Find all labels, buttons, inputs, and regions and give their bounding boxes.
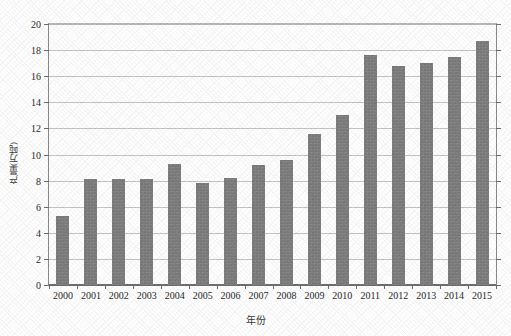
x-tick-mark — [245, 285, 246, 289]
bar — [196, 183, 209, 285]
y-tick-label: 10 — [31, 149, 41, 160]
y-tick-mark-right — [496, 50, 501, 51]
y-tick-label: 14 — [31, 97, 41, 108]
x-tick-label: 2008 — [276, 290, 296, 301]
x-tick-mark — [468, 285, 469, 289]
bar — [392, 66, 405, 285]
y-tick-label: 16 — [31, 71, 41, 82]
bar — [140, 179, 153, 285]
x-tick-mark — [217, 285, 218, 289]
y-tick-mark-left — [44, 76, 49, 77]
x-tick-mark — [412, 285, 413, 289]
y-tick-mark-right — [496, 76, 501, 77]
bar — [112, 179, 125, 285]
x-tick-label: 2006 — [221, 290, 241, 301]
x-tick-mark — [133, 285, 134, 289]
gridline — [49, 24, 496, 25]
x-tick-mark — [77, 285, 78, 289]
y-tick-label: 0 — [36, 280, 41, 291]
y-tick-mark-right — [496, 128, 501, 129]
x-tick-mark — [384, 285, 385, 289]
x-tick-mark — [300, 285, 301, 289]
bar-chart-figure: 产量(万吨) 02468101214161820 200020012002200… — [0, 0, 511, 336]
plot-area: 02468101214161820 2000200120022003200420… — [48, 23, 497, 286]
x-tick-mark — [273, 285, 274, 289]
y-tick-mark-left — [44, 128, 49, 129]
y-tick-mark-left — [44, 155, 49, 156]
bar — [280, 160, 293, 285]
x-tick-mark — [440, 285, 441, 289]
y-tick-mark-right — [496, 233, 501, 234]
y-tick-label: 4 — [36, 227, 41, 238]
y-tick-mark-right — [496, 259, 501, 260]
x-tick-mark — [161, 285, 162, 289]
y-tick-label: 12 — [31, 123, 41, 134]
bar — [84, 179, 97, 285]
bar — [56, 216, 69, 285]
y-tick-label: 20 — [31, 19, 41, 30]
bar — [168, 164, 181, 285]
x-tick-label: 2007 — [249, 290, 269, 301]
x-tick-mark — [49, 285, 50, 289]
y-tick-mark-left — [44, 50, 49, 51]
bar — [252, 165, 265, 285]
y-tick-mark-left — [44, 233, 49, 234]
x-axis-title: 年份 — [0, 312, 511, 327]
bar — [448, 57, 461, 285]
y-tick-mark-left — [44, 181, 49, 182]
x-tick-label: 2010 — [332, 290, 352, 301]
y-tick-mark-left — [44, 24, 49, 25]
bar — [420, 63, 433, 285]
x-tick-mark — [328, 285, 329, 289]
y-tick-mark-right — [496, 155, 501, 156]
x-tick-label: 2000 — [53, 290, 73, 301]
bar — [308, 134, 321, 285]
y-tick-mark-right — [496, 207, 501, 208]
y-tick-label: 8 — [36, 175, 41, 186]
bar — [476, 41, 489, 285]
bar — [364, 55, 377, 285]
x-tick-label: 2009 — [304, 290, 324, 301]
x-tick-label: 2012 — [388, 290, 408, 301]
x-tick-mark — [356, 285, 357, 289]
x-tick-label: 2004 — [165, 290, 185, 301]
x-tick-label: 2003 — [137, 290, 157, 301]
bar — [336, 115, 349, 285]
x-tick-mark — [189, 285, 190, 289]
x-tick-label: 2002 — [109, 290, 129, 301]
x-tick-label: 2013 — [416, 290, 436, 301]
x-tick-label: 2001 — [81, 290, 101, 301]
y-tick-label: 2 — [36, 253, 41, 264]
y-tick-mark-left — [44, 207, 49, 208]
y-tick-mark-left — [44, 259, 49, 260]
x-tick-label: 2011 — [360, 290, 380, 301]
y-tick-mark-right — [496, 24, 501, 25]
x-tick-label: 2015 — [472, 290, 492, 301]
y-tick-label: 6 — [36, 201, 41, 212]
bar — [224, 178, 237, 285]
y-tick-mark-right — [496, 181, 501, 182]
x-tick-mark — [496, 285, 497, 289]
x-tick-mark — [105, 285, 106, 289]
gridline — [49, 50, 496, 51]
y-tick-mark-right — [496, 102, 501, 103]
y-axis-title: 产量(万吨) — [6, 118, 20, 208]
x-tick-label: 2005 — [193, 290, 213, 301]
y-tick-label: 18 — [31, 45, 41, 56]
y-tick-mark-left — [44, 102, 49, 103]
x-tick-label: 2014 — [444, 290, 464, 301]
